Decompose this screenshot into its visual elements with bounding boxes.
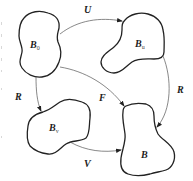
edge-label-r-right: R xyxy=(176,84,184,95)
node-bu: Bu xyxy=(101,13,164,73)
node-b: B xyxy=(121,103,175,175)
mapping-diagram: B0 Bu Bv B U R F R xyxy=(0,0,193,181)
edge-label-r-left: R xyxy=(14,91,22,102)
edge-label-u: U xyxy=(84,4,92,15)
edge-v: V xyxy=(70,142,121,169)
region-b-outline xyxy=(121,103,175,175)
label-b: B xyxy=(140,149,148,160)
node-b0: B0 xyxy=(19,11,61,77)
arrow-v xyxy=(70,142,121,151)
edge-label-f: F xyxy=(98,92,106,103)
edge-r-left: R xyxy=(14,77,41,111)
label-bu: Bu xyxy=(134,38,145,50)
scan-noise xyxy=(1,22,2,138)
label-bv: Bv xyxy=(48,122,59,134)
edge-label-v: V xyxy=(84,158,92,169)
edge-r-right: R xyxy=(157,56,184,127)
region-b0-outline xyxy=(19,11,61,77)
region-bv-outline xyxy=(27,99,90,154)
region-bu-outline xyxy=(101,13,164,73)
arrow-r-right xyxy=(157,56,169,127)
edge-u: U xyxy=(60,4,122,34)
arrow-r-left xyxy=(36,77,41,111)
node-bv: Bv xyxy=(27,99,90,154)
arrow-u xyxy=(60,19,122,34)
label-b0: B0 xyxy=(29,39,40,51)
